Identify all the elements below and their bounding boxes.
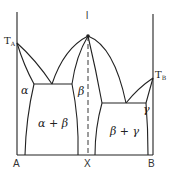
axis-label-b: B [148,159,155,169]
solvus-beta-right [95,103,102,155]
liquidus-beta-left [52,36,88,84]
axis-label-a: A [13,159,20,169]
phase-diagram: l TA TB α β γ α + β β + γ A X B [0,0,170,172]
label-beta: β [78,86,84,97]
label-liquid: l [86,11,88,21]
solidus-alpha [17,43,34,84]
label-ta-main: T [4,35,11,46]
solidus-beta-left [72,36,88,84]
liquidus-beta-right [88,36,126,103]
label-beta-plus-gamma: β + γ [110,126,139,137]
label-tb: TB [155,70,166,81]
solidus-beta-right [88,36,102,103]
label-ta-sub: A [11,40,15,47]
axis-label-x: X [84,159,91,169]
label-alpha-plus-beta: α + β [38,118,68,129]
label-ta: TA [4,36,15,47]
label-alpha: α [21,85,28,96]
label-tb-sub: B [162,74,166,81]
label-gamma: γ [143,104,150,115]
congruent-melting-point [86,34,90,38]
label-tb-main: T [155,69,162,80]
liquidus-alpha [17,43,52,84]
